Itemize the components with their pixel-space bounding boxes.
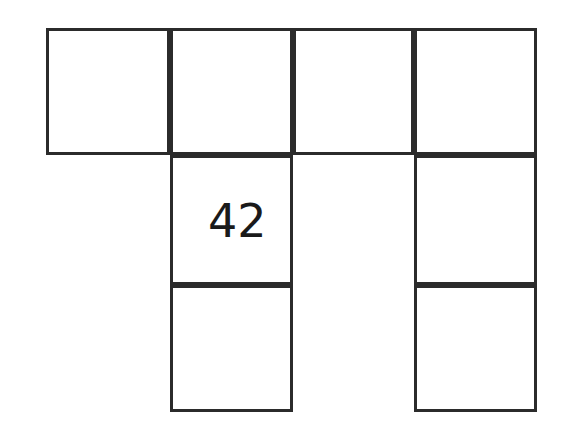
grid-cell-r3c2[interactable] <box>170 285 293 412</box>
grid-cell-r1c2[interactable] <box>170 28 293 155</box>
grid-cell-r2c4[interactable] <box>414 155 537 285</box>
grid-cell-r1c3[interactable] <box>293 28 414 155</box>
grid-cell-r1c4[interactable] <box>414 28 537 155</box>
grid-figure-canvas: 42 <box>0 0 561 443</box>
grid-cell-r2c2[interactable]: 42 <box>170 155 293 285</box>
grid-cell-label: 42 <box>208 198 267 244</box>
grid-cell-r1c1[interactable] <box>46 28 170 155</box>
grid-cell-r3c4[interactable] <box>414 285 537 412</box>
